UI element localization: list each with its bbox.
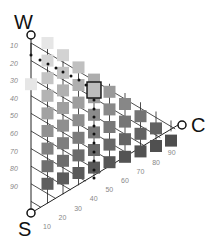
path-dot: [93, 133, 96, 136]
left-tick-label: 50: [10, 112, 18, 119]
color-swatch[interactable]: [57, 84, 69, 96]
color-swatch[interactable]: [42, 90, 54, 102]
path-dot: [93, 125, 96, 128]
vertex-s-label: S: [18, 218, 31, 240]
path-dot: [93, 99, 96, 102]
color-swatch[interactable]: [57, 49, 69, 61]
color-swatch[interactable]: [42, 107, 54, 119]
color-swatch[interactable]: [88, 144, 100, 156]
vertex-c-marker: [178, 121, 186, 129]
path-dot: [85, 84, 88, 87]
bottom-tick-label: 80: [152, 159, 160, 166]
path-dot: [78, 79, 81, 82]
color-swatch[interactable]: [104, 121, 116, 133]
bottom-tick-label: 90: [168, 149, 176, 156]
color-swatch[interactable]: [57, 137, 69, 149]
bottom-tick-label: 50: [105, 186, 113, 193]
color-swatch[interactable]: [104, 156, 116, 168]
left-tick-label: 90: [10, 183, 18, 190]
color-swatch[interactable]: [42, 160, 54, 172]
color-swatch[interactable]: [25, 78, 37, 90]
color-swatch[interactable]: [88, 126, 100, 138]
left-tick-label: 20: [9, 60, 18, 67]
bottom-tick-label: 30: [74, 205, 82, 212]
bottom-tick-label: 20: [59, 214, 67, 221]
color-swatch[interactable]: [42, 37, 54, 49]
selected-swatch[interactable]: [87, 82, 101, 98]
color-swatch[interactable]: [135, 145, 147, 157]
color-swatch[interactable]: [119, 98, 131, 110]
color-swatch[interactable]: [104, 86, 116, 98]
color-swatch[interactable]: [104, 139, 116, 151]
path-dot: [47, 63, 50, 66]
path-dot: [93, 142, 96, 145]
color-swatch[interactable]: [57, 155, 69, 167]
grid-line-desc: [31, 201, 41, 207]
path-dot: [93, 177, 96, 180]
color-swatch[interactable]: [73, 97, 85, 109]
path-dot: [62, 71, 65, 74]
path-dot: [93, 169, 96, 172]
left-tick-label: 70: [10, 148, 18, 155]
color-swatch[interactable]: [88, 109, 100, 121]
color-swatch[interactable]: [42, 143, 54, 155]
color-swatch[interactable]: [57, 102, 69, 114]
color-swatch[interactable]: [150, 140, 162, 152]
bottom-tick-label: 70: [137, 168, 145, 175]
bottom-tick-label: 60: [121, 177, 129, 184]
color-swatch[interactable]: [88, 162, 100, 174]
color-swatch[interactable]: [57, 172, 69, 184]
color-swatch[interactable]: [104, 103, 116, 115]
color-swatch[interactable]: [135, 128, 147, 140]
path-dot: [93, 108, 96, 111]
color-swatch[interactable]: [42, 72, 54, 84]
vertex-s-marker: [27, 209, 35, 217]
bottom-tick-label: 10: [43, 223, 51, 230]
left-tick-label: 80: [10, 165, 18, 172]
left-tick-label: 30: [10, 77, 18, 84]
path-dot: [93, 116, 96, 119]
color-swatch[interactable]: [73, 132, 85, 144]
left-tick-label: 10: [10, 42, 18, 49]
vertex-c-label: C: [191, 114, 205, 136]
path-dot: [93, 151, 96, 154]
color-swatch[interactable]: [57, 120, 69, 132]
path-dot: [39, 59, 42, 62]
vertex-w-label: W: [14, 11, 33, 33]
color-swatch[interactable]: [119, 116, 131, 128]
color-swatch[interactable]: [42, 178, 54, 190]
color-swatch[interactable]: [73, 149, 85, 161]
path-dot: [55, 67, 58, 70]
color-triangle-diagram: WSC102030405060708090102030405060708090: [0, 0, 215, 248]
color-swatch[interactable]: [42, 125, 54, 137]
left-tick-label: 60: [10, 130, 18, 137]
color-swatch[interactable]: [73, 167, 85, 179]
bottom-tick-label: 40: [90, 195, 98, 202]
color-swatch[interactable]: [119, 151, 131, 163]
color-swatch[interactable]: [135, 110, 147, 122]
color-swatch[interactable]: [119, 133, 131, 145]
color-swatch[interactable]: [150, 122, 162, 134]
path-dot: [70, 75, 73, 78]
color-swatch[interactable]: [73, 61, 85, 73]
path-dot: [93, 160, 96, 163]
color-swatch[interactable]: [73, 114, 85, 126]
left-tick-label: 40: [10, 95, 18, 102]
color-swatch[interactable]: [165, 135, 177, 147]
